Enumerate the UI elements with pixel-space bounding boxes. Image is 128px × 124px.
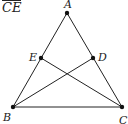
segment-ac xyxy=(67,13,122,107)
label-a: A xyxy=(63,0,72,11)
point-e xyxy=(39,56,43,60)
label-b: B xyxy=(2,111,11,124)
point-b xyxy=(11,105,15,109)
segment-ab xyxy=(13,13,67,107)
point-c xyxy=(120,105,124,109)
point-a xyxy=(65,11,69,15)
point-d xyxy=(91,56,95,60)
label-c: C xyxy=(119,114,128,124)
triangle-diagram: A E D B C xyxy=(0,0,128,124)
label-e: E xyxy=(28,51,37,64)
label-d: D xyxy=(97,51,107,64)
